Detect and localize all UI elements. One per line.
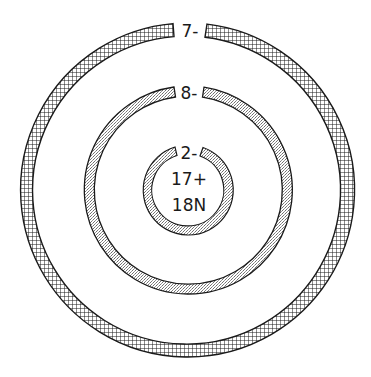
outer-shell-ring — [21, 24, 355, 357]
atom-diagram: 7- 8- 2- 17+ 18N — [0, 0, 371, 377]
middle-shell-electron-count: 8- — [181, 83, 198, 103]
middle-shell-ring — [84, 87, 292, 294]
inner-shell: 2- — [143, 143, 233, 235]
nucleus: 17+ 18N — [171, 169, 207, 215]
inner-shell-electron-count: 2- — [181, 143, 198, 163]
outer-shell-electron-count: 7- — [182, 21, 199, 41]
neutron-count: 18N — [172, 195, 206, 215]
proton-count: 17+ — [171, 169, 207, 189]
